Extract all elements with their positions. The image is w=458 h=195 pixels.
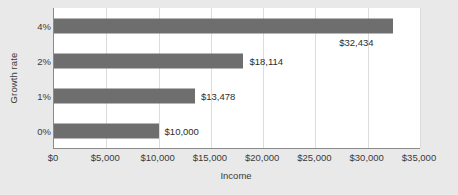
y-axis-tick-label: 4% [22, 20, 51, 31]
x-axis-tick-label: $15,000 [193, 152, 227, 163]
gridline [420, 8, 421, 148]
bar-series: $10,000$13,478$18,114$32,434 [54, 8, 420, 148]
x-axis-tick-label: $35,000 [402, 152, 436, 163]
y-axis-tick-labels: 4% 2% 1% 0% [22, 8, 51, 148]
x-axis-tick-labels: $0$5,000$10,000$15,000$20,000$25,000$30,… [53, 152, 419, 166]
y-axis-tick-label: 0% [22, 125, 51, 136]
x-axis-tick-label: $20,000 [245, 152, 279, 163]
plot-area: $10,000$13,478$18,114$32,434 [53, 8, 420, 149]
bar-value-label: $18,114 [249, 55, 283, 66]
bar-chart: Growth rate 4% 2% 1% 0% $10,000$13,478$1… [0, 0, 458, 195]
x-axis-tick-label: $30,000 [350, 152, 384, 163]
bar-value-label: $32,434 [339, 37, 373, 48]
x-axis-tick-label: $5,000 [91, 152, 120, 163]
bar [54, 18, 393, 33]
bar [54, 88, 195, 103]
x-axis-title: Income [53, 170, 419, 181]
y-axis-tick-label: 2% [22, 55, 51, 66]
bar [54, 53, 243, 68]
bar-value-label: $10,000 [165, 125, 199, 136]
y-axis-tick-label: 1% [22, 90, 51, 101]
x-axis-tick-label: $10,000 [140, 152, 174, 163]
x-axis-tick-label: $25,000 [297, 152, 331, 163]
bar-value-label: $13,478 [201, 90, 235, 101]
x-axis-tick-label: $0 [48, 152, 59, 163]
bar [54, 123, 159, 138]
